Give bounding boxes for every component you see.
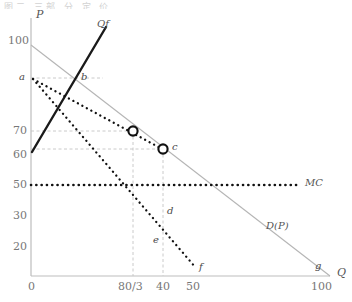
y-tick-50: 50 — [13, 179, 27, 190]
point-label-e: e — [153, 235, 159, 245]
y-tick-70: 70 — [13, 125, 27, 136]
x-tick-100: 100 — [311, 281, 332, 292]
residual-demand-dotted-line — [33, 79, 164, 150]
x-tick-40: 40 — [156, 281, 170, 292]
x-tick-80-3: 80/3 — [118, 281, 143, 292]
point-label-b: b — [81, 72, 87, 82]
point-label-c: c — [172, 142, 178, 152]
point-label-f: f — [199, 262, 203, 272]
point-label-d: d — [167, 206, 173, 216]
supply-curve-label: Qf — [97, 19, 109, 29]
y-axis-label: P — [36, 9, 43, 20]
point-label-g: g — [315, 261, 321, 271]
x-tick-0: 0 — [28, 281, 35, 292]
point-label-a: a — [19, 72, 25, 82]
point-marker-c — [158, 144, 167, 153]
x-tick-50: 50 — [186, 281, 200, 292]
marginal-revenue-dotted-line — [33, 79, 196, 268]
y-tick-20: 20 — [13, 241, 27, 252]
economics-chart-figure: 图二 三部 分 定 价 图 100 70 60 50 30 20 0 80/3 … — [0, 0, 352, 302]
y-tick-100: 100 — [8, 35, 29, 46]
y-tick-60: 60 — [13, 149, 27, 160]
marginal-cost-curve-label: MC — [305, 178, 323, 188]
point-marker-80over3-70 — [128, 126, 137, 135]
demand-curve-label: D(P) — [266, 221, 289, 231]
y-tick-30: 30 — [13, 210, 27, 221]
x-axis-label: Q — [337, 267, 346, 278]
